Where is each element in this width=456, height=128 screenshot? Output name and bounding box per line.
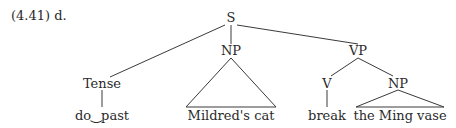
node-tense: Tense bbox=[83, 77, 121, 90]
node-s: S bbox=[227, 11, 236, 24]
branch-s-tense bbox=[110, 25, 225, 77]
branch-s-vp bbox=[237, 25, 358, 44]
leaf-tense: do‿past bbox=[75, 109, 129, 122]
node-v: V bbox=[322, 77, 331, 90]
node-subject-np: NP bbox=[221, 44, 241, 57]
node-vp: VP bbox=[349, 44, 367, 57]
leaf-object: the Ming vase bbox=[353, 109, 446, 122]
branch-vp-np bbox=[358, 58, 393, 76]
leaf-subject: Mildred's cat bbox=[188, 109, 275, 122]
triangle-object-np bbox=[356, 90, 444, 107]
branch-vp-v bbox=[331, 58, 358, 76]
node-object-np: NP bbox=[388, 77, 408, 90]
triangle-subject-np bbox=[186, 58, 276, 107]
leaf-verb: break bbox=[308, 109, 346, 122]
